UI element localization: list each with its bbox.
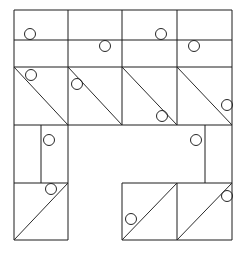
figure-root (0, 0, 247, 255)
geometric-figure (0, 0, 247, 255)
figure-background (0, 0, 247, 255)
